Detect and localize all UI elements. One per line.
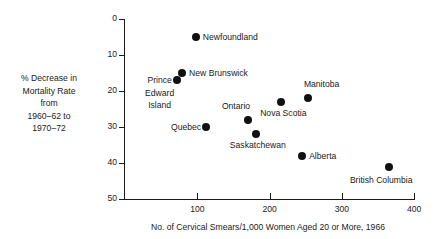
x-tick-mark (342, 193, 343, 199)
data-point (277, 98, 285, 106)
y-tick-label: 0 (97, 13, 117, 23)
data-point (385, 163, 393, 171)
data-point-label: Saskatchewan (230, 139, 286, 152)
x-tick-mark (197, 193, 198, 199)
data-point (173, 76, 181, 84)
data-point-label: Alberta (309, 150, 336, 163)
data-point (298, 152, 306, 160)
y-axis-title: % Decrease in Mortality Rate from 1960–6… (6, 72, 92, 135)
data-point-label: Nova Scotia (260, 107, 306, 120)
x-tick-mark (414, 193, 415, 199)
data-point (192, 33, 200, 41)
x-axis-title: No. of Cervical Smears/1,000 Women Aged … (100, 222, 436, 232)
y-tick-mark (119, 199, 125, 200)
y-tick-mark (119, 91, 125, 92)
y-tick-label: 50 (97, 193, 117, 203)
y-tick-label: 30 (97, 121, 117, 131)
y-tick-mark (119, 163, 125, 164)
data-point (252, 130, 260, 138)
data-point-label: New Brunswick (189, 67, 248, 80)
x-tick-mark (270, 193, 271, 199)
data-point-label: Manitoba (304, 78, 339, 91)
y-tick-mark (119, 127, 125, 128)
y-tick-label: 10 (97, 49, 117, 59)
data-point-label: Prince Edward Island (145, 74, 174, 112)
x-tick-label: 300 (327, 204, 357, 214)
data-point (304, 94, 312, 102)
data-point-label: British Columbia (350, 174, 413, 187)
x-tick-label: 200 (255, 204, 285, 214)
data-point (244, 116, 252, 124)
y-tick-label: 20 (97, 85, 117, 95)
data-point (202, 123, 210, 131)
data-point-label: Quebec (171, 121, 201, 134)
y-tick-mark (119, 19, 125, 20)
data-point-label: Ontario (222, 100, 250, 113)
scatter-chart: % Decrease in Mortality Rate from 1960–6… (0, 0, 436, 239)
x-tick-label: 400 (399, 204, 429, 214)
y-tick-mark (119, 55, 125, 56)
data-point-label: Newfoundland (203, 31, 258, 44)
x-tick-label: 100 (182, 204, 212, 214)
y-tick-label: 40 (97, 157, 117, 167)
y-axis-line (124, 19, 125, 200)
